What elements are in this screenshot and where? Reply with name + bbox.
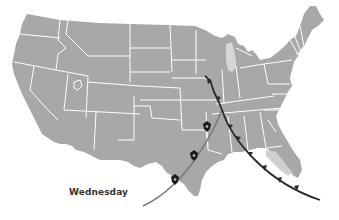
day-label: Wednesday [69, 187, 128, 197]
us-weather-map [0, 0, 339, 220]
